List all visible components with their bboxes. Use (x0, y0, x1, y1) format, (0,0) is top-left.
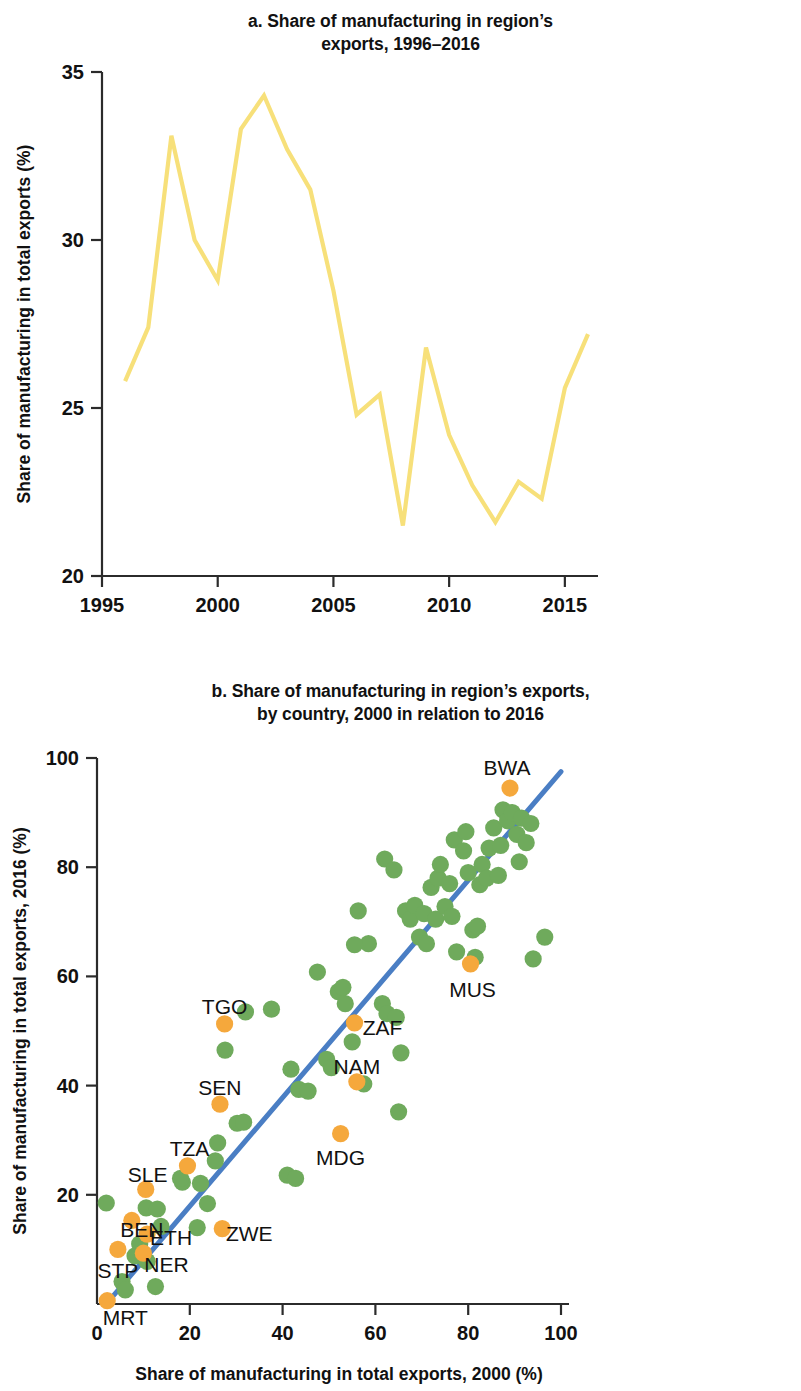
scatter-point (490, 867, 507, 884)
scatter-label-nam: NAM (334, 1055, 381, 1078)
panel-b-y-tick-label: 60 (57, 965, 79, 987)
scatter-point (282, 1061, 299, 1078)
scatter-label-sen: SEN (198, 1076, 241, 1099)
scatter-point-stp (109, 1241, 126, 1258)
panel-b-title-line2: by country, 2000 in relation to 2016 (0, 703, 801, 726)
scatter-label-bwa: BWA (483, 756, 530, 779)
scatter-point-mdg (332, 1125, 349, 1142)
panel-b-y-tick-label: 40 (57, 1075, 79, 1097)
panel-b-y-tick-label: 80 (57, 856, 79, 878)
scatter-point (199, 1195, 216, 1212)
scatter-point (147, 1278, 164, 1295)
scatter-point (469, 918, 486, 935)
scatter-label-tza: TZA (170, 1137, 210, 1160)
scatter-point (457, 823, 474, 840)
scatter-point (443, 908, 460, 925)
panel-a-x-tick-label: 2005 (311, 594, 356, 616)
panel-b-x-tick-label: 40 (271, 1322, 293, 1344)
scatter-point (192, 1175, 209, 1192)
scatter-point (287, 1170, 304, 1187)
panel-a-plot-area: 20253035 19952000200520102015 Share of m… (0, 56, 801, 641)
panel-b-title: b. Share of manufacturing in region’s ex… (0, 655, 801, 726)
scatter-point (263, 1001, 280, 1018)
scatter-point (149, 1200, 166, 1217)
scatter-point (536, 928, 553, 945)
scatter-point (309, 963, 326, 980)
scatter-label-eth: ETH (150, 1226, 192, 1249)
scatter-label-stp: STP (97, 1259, 138, 1282)
scatter-label-tgo: TGO (202, 995, 248, 1018)
panel-b-y-tick-label: 100 (46, 747, 79, 769)
panel-a-x-tick-label: 2010 (427, 594, 472, 616)
scatter-point (300, 1082, 317, 1099)
scatter-point (418, 935, 435, 952)
scatter-point (511, 853, 528, 870)
panel-b-x-tick-label: 80 (457, 1322, 479, 1344)
scatter-point (522, 815, 539, 832)
panel-b-plot-area: 20406080100 020406080100 BWAMUSZAFNAMMDG… (0, 726, 801, 1386)
panel-b-x-tick-label: 100 (544, 1322, 577, 1344)
panel-b-x-axis-title: Share of manufacturing in total exports,… (135, 1364, 542, 1384)
scatter-point (432, 856, 449, 873)
panel-a-y-ticks: 20253035 (62, 61, 102, 587)
panel-a-y-tick-label: 30 (62, 229, 84, 251)
scatter-point (455, 842, 472, 859)
panel-a-y-tick-label: 35 (62, 61, 84, 83)
panel-a-y-axis-title: Share of manufacturing in total exports … (14, 145, 34, 504)
panel-a-data-line (125, 96, 588, 526)
panel-a-title: a. Share of manufacturing in region’s ex… (0, 0, 801, 56)
scatter-point (525, 950, 542, 967)
panel-b-x-tick-label: 60 (364, 1322, 386, 1344)
panel-a-x-tick-label: 2015 (543, 594, 588, 616)
scatter-point (235, 1114, 252, 1131)
panel-b-x-ticks: 020406080100 (91, 1304, 577, 1344)
scatter-point-zaf (346, 1014, 363, 1031)
panel-a-svg: 20253035 19952000200520102015 Share of m… (0, 56, 801, 641)
scatter-point (385, 861, 402, 878)
scatter-point (334, 979, 351, 996)
scatter-point (216, 1042, 233, 1059)
scatter-point (518, 834, 535, 851)
panel-b-y-axis-title: Share of manufacturing in total exports,… (10, 827, 30, 1234)
scatter-point (392, 1044, 409, 1061)
scatter-label-mdg: MDG (316, 1146, 365, 1169)
scatter-point (117, 1281, 134, 1298)
panel-a-title-line2: exports, 1996–2016 (0, 33, 801, 56)
scatter-label-ner: NER (144, 1253, 188, 1276)
panel-a-x-ticks: 19952000200520102015 (80, 576, 587, 616)
scatter-label-zwe: ZWE (226, 1222, 273, 1245)
scatter-point-mus (462, 955, 479, 972)
panel-b-scatter-chart: b. Share of manufacturing in region’s ex… (0, 655, 801, 1391)
scatter-point (441, 875, 458, 892)
panel-a-y-tick-label: 25 (62, 397, 84, 419)
scatter-point (350, 902, 367, 919)
scatter-point (337, 995, 354, 1012)
scatter-label-mus: MUS (449, 978, 496, 1001)
panel-b-y-ticks: 20406080100 (46, 747, 97, 1206)
scatter-point (390, 1103, 407, 1120)
panel-a-x-tick-label: 2000 (195, 594, 240, 616)
scatter-point (346, 936, 363, 953)
panel-b-x-tick-label: 0 (91, 1322, 102, 1344)
panel-b-svg: 20406080100 020406080100 BWAMUSZAFNAMMDG… (0, 726, 801, 1386)
scatter-point (209, 1134, 226, 1151)
scatter-point (448, 943, 465, 960)
panel-b-x-tick-label: 20 (179, 1322, 201, 1344)
scatter-point (344, 1033, 361, 1050)
scatter-label-mrt: MRT (103, 1306, 148, 1329)
panel-a-x-tick-label: 1995 (80, 594, 125, 616)
panel-b-point-labels: BWAMUSZAFNAMMDGTGOSENTZASLEBENETHNERSTPM… (97, 756, 530, 1329)
scatter-label-sle: SLE (128, 1163, 168, 1186)
scatter-point-bwa (501, 779, 518, 796)
scatter-point (98, 1194, 115, 1211)
scatter-label-zaf: ZAF (363, 1016, 403, 1039)
panel-b-y-tick-label: 20 (57, 1184, 79, 1206)
panel-b-title-line1: b. Share of manufacturing in region’s ex… (0, 680, 801, 703)
panel-a-line-chart: a. Share of manufacturing in region’s ex… (0, 0, 801, 655)
scatter-point (492, 837, 509, 854)
panel-a-y-tick-label: 20 (62, 565, 84, 587)
panel-a-title-line1: a. Share of manufacturing in region’s (0, 10, 801, 33)
